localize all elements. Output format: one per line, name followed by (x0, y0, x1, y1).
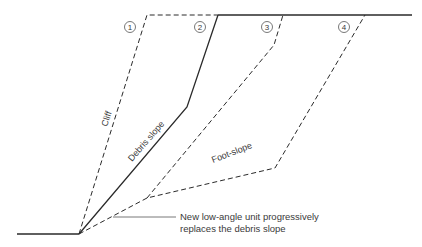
annotation-line-1: New low-angle unit progressively (180, 211, 319, 223)
annotation-text: New low-angle unit progressively replace… (180, 211, 319, 235)
foot-slope-label: Foot-slope (210, 140, 253, 165)
profile-4-foot-slope (79, 15, 365, 234)
cliff-label: Cliff (99, 109, 113, 127)
slope-retreat-diagram: 1 2 3 4 Cliff Debris slope Foot-slope (0, 0, 422, 247)
stage-label-2: 2 (195, 22, 206, 33)
svg-text:2: 2 (198, 23, 203, 32)
annotation-line-2: replaces the debris slope (180, 223, 319, 235)
stage-label-1: 1 (125, 22, 136, 33)
svg-text:4: 4 (342, 23, 347, 32)
stage-label-4: 4 (339, 22, 350, 33)
svg-text:3: 3 (265, 23, 270, 32)
stage-label-3: 3 (262, 22, 273, 33)
debris-slope-label: Debris slope (126, 119, 166, 163)
svg-text:1: 1 (128, 23, 133, 32)
